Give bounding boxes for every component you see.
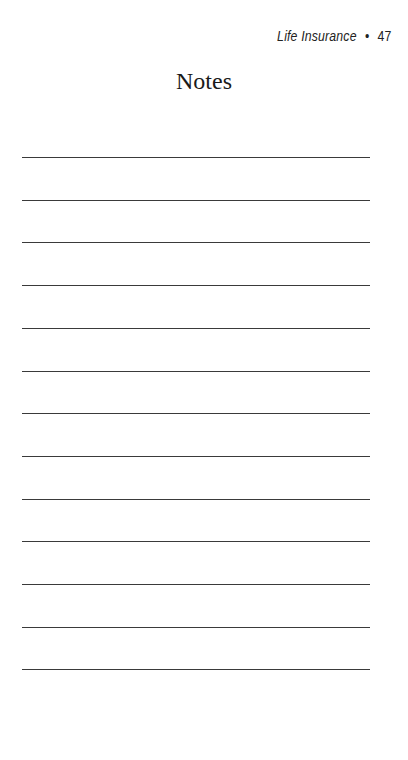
note-line	[22, 328, 370, 329]
note-line	[22, 499, 370, 500]
note-line	[22, 371, 370, 372]
note-line	[22, 627, 370, 628]
separator-bullet: •	[365, 27, 369, 44]
note-line	[22, 200, 370, 201]
page-title: Notes	[0, 68, 408, 95]
note-line	[22, 157, 370, 158]
note-line	[22, 242, 370, 243]
note-line	[22, 669, 370, 670]
note-line	[22, 541, 370, 542]
running-head: Life Insurance•47	[278, 27, 392, 44]
note-line	[22, 456, 370, 457]
note-line	[22, 584, 370, 585]
note-line	[22, 285, 370, 286]
note-line	[22, 413, 370, 414]
page-number: 47	[378, 27, 392, 44]
section-title: Life Insurance	[278, 27, 358, 44]
